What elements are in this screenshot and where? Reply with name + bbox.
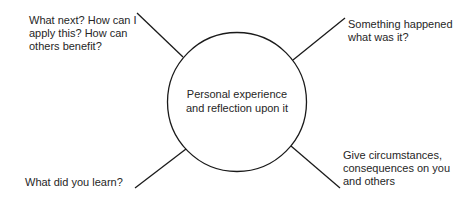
label-line: Give circumstances, (343, 149, 450, 162)
label-line: others benefit? (29, 40, 137, 53)
label-line: What did you learn? (25, 176, 123, 189)
center-label-line-1: Personal experience (167, 88, 307, 102)
spoke-top-right (293, 18, 345, 60)
label-bottom-right: Give circumstances, consequences on you … (343, 149, 450, 188)
label-bottom-left: What did you learn? (25, 176, 123, 189)
center-label-line-2: and reflection upon it (167, 102, 307, 116)
label-top-left: What next? How can I apply this? How can… (29, 14, 137, 53)
spoke-bottom-left (135, 149, 186, 188)
spoke-bottom-right (291, 146, 340, 188)
spoke-top-left (137, 13, 183, 57)
label-line: apply this? How can (29, 27, 137, 40)
label-line: what was it? (348, 31, 453, 44)
center-label: Personal experience and reflection upon … (167, 88, 307, 115)
label-line: and others (343, 175, 450, 188)
label-line: Something happened (348, 18, 453, 31)
label-line: What next? How can I (29, 14, 137, 27)
label-top-right: Something happened what was it? (348, 18, 453, 44)
label-line: consequences on you (343, 162, 450, 175)
